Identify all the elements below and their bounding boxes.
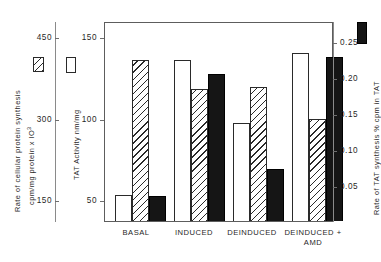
bar-induced-tat-activity — [174, 60, 191, 221]
axis-right-tick-010 — [333, 151, 337, 152]
legend-swatch-protein-synthesis — [33, 57, 44, 72]
category-label-deinduced-amd: DEINDUCED + AMD — [280, 228, 346, 248]
axis-left-ticklabel-300: 300 — [25, 115, 52, 124]
axis-middle-ticklabel-50: 50 — [70, 196, 97, 205]
category-label-induced: INDUCED — [166, 228, 222, 238]
axis-right-tick-025 — [333, 43, 337, 44]
axis-left-title-exponent: 3 — [26, 126, 32, 129]
bar-induced-tat-synthesis — [208, 74, 225, 221]
axis-left-title-line2-text: cpm/mg protein x IO — [27, 130, 36, 205]
bar-basal-tat-activity — [115, 195, 132, 221]
category-label-basal: BASAL — [108, 228, 164, 238]
axis-right-title: Rate of TAT synthesis % cpm in TAT — [372, 81, 381, 215]
legend-swatch-tat-synthesis — [357, 22, 367, 44]
axis-middle-ticklabel-100: 100 — [70, 115, 97, 124]
bar-deinduced-tat-activity — [233, 123, 250, 221]
axis-right-spine — [333, 22, 334, 222]
axis-left-tick-150 — [55, 201, 59, 202]
legend-swatch-tat-activity — [66, 57, 76, 73]
axis-middle-ticklabel-150: 150 — [70, 33, 97, 42]
bar-deinduced-amd-tat-activity — [292, 53, 309, 221]
category-label-deinduced: DEINDUCED — [222, 228, 282, 238]
axis-left-title-line2: cpm/mg protein x IO3 — [26, 126, 36, 205]
bar-basal-protein-synthesis — [132, 60, 149, 221]
bar-deinduced-protein-synthesis — [250, 87, 267, 221]
axis-left-ticklabel-450: 450 — [25, 33, 52, 42]
axis-left-tick-450 — [55, 38, 59, 39]
axis-left-ticklabel-150: 150 — [25, 196, 52, 205]
axis-right-ticklabel-005: 0.05 — [340, 182, 365, 191]
axis-right-ticklabel-015: 0.15 — [340, 110, 365, 119]
axis-left-tick-300 — [55, 120, 59, 121]
axis-right-ticklabel-010: 0.10 — [340, 146, 365, 155]
axis-left-spine — [55, 22, 56, 222]
plot-area — [104, 22, 333, 222]
bar-deinduced-amd-protein-synthesis — [309, 119, 326, 221]
bar-basal-tat-synthesis — [149, 196, 166, 221]
category-label-deinduced-amd-line2: AMD — [280, 238, 346, 248]
axis-right-tick-005 — [333, 187, 337, 188]
axis-right-ticklabel-020: 0.20 — [340, 74, 365, 83]
axis-left-title-line1: Rate of cellular protein synthesis — [13, 90, 22, 212]
axis-right-tick-015 — [333, 115, 337, 116]
bar-induced-protein-synthesis — [191, 89, 208, 221]
category-label-deinduced-amd-line1: DEINDUCED + — [280, 228, 346, 238]
bar-deinduced-tat-synthesis — [267, 169, 284, 221]
axis-right-tick-020 — [333, 79, 337, 80]
